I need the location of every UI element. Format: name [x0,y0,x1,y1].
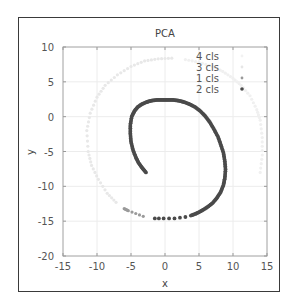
x-tick-label: 15 [261,261,274,272]
grid-lines [63,47,267,256]
x-tick-label: -10 [89,261,105,272]
x-tick-label: 0 [162,261,168,272]
y-tick-label: -15 [38,216,54,227]
x-tick-label: -15 [55,261,71,272]
legend: 4 cls3 cls1 cls2 cls [196,51,244,95]
x-axis-label: x [162,278,168,289]
y-tick-label: 5 [48,77,54,88]
legend-item: 4 cls [196,51,243,62]
x-tick-label: 10 [227,261,240,272]
legend-marker-icon [241,66,244,69]
legend-label: 1 cls [196,73,219,84]
scatter-chart: -15-10-50510151050-5-10-15-20 PCA x y 4 … [0,0,295,307]
legend-label: 3 cls [196,62,219,73]
legend-marker-icon [241,55,244,58]
axis-ticks: -15-10-50510151050-5-10-15-20 [38,42,274,272]
legend-label: 2 cls [196,84,219,95]
y-tick-label: 0 [48,112,54,123]
y-tick-label: -5 [44,147,54,158]
y-tick-label: -20 [38,251,54,262]
data-points [85,57,264,221]
chart-title: PCA [155,28,175,39]
legend-marker-icon [240,87,244,91]
x-tick-label: 5 [196,261,202,272]
series-1-cls [123,207,145,218]
y-axis-label: y [25,149,36,155]
legend-marker-icon [241,77,244,80]
legend-item: 2 cls [196,84,244,95]
x-tick-label: -5 [126,261,136,272]
legend-label: 4 cls [196,51,219,62]
y-tick-label: -10 [38,181,54,192]
y-tick-label: 10 [41,42,54,53]
